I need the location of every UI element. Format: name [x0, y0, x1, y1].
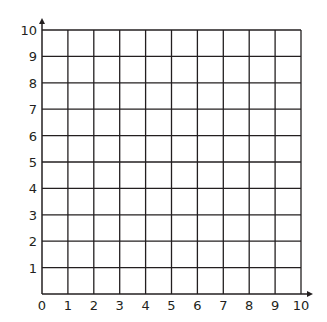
y-tick-label: 5 — [29, 155, 37, 170]
y-tick-label: 4 — [29, 181, 37, 196]
x-tick-label: 3 — [116, 298, 124, 313]
x-tick-label: 1 — [64, 298, 72, 313]
y-axis-tick-labels: 12345678910 — [20, 23, 37, 276]
y-tick-label: 9 — [29, 49, 37, 64]
x-axis-tick-labels: 012345678910 — [38, 298, 309, 313]
y-axis-arrow-icon — [39, 18, 45, 24]
x-tick-label: 2 — [90, 298, 98, 313]
y-tick-label: 8 — [29, 76, 37, 91]
x-tick-label: 5 — [167, 298, 175, 313]
x-tick-label: 4 — [141, 298, 149, 313]
x-tick-label: 10 — [293, 298, 310, 313]
y-tick-label: 3 — [29, 208, 37, 223]
coordinate-grid: 012345678910 12345678910 — [0, 0, 327, 322]
y-tick-label: 1 — [29, 261, 37, 276]
axes — [39, 18, 313, 297]
y-tick-label: 2 — [29, 234, 37, 249]
x-tick-label: 6 — [193, 298, 201, 313]
x-axis-arrow-icon — [307, 291, 313, 297]
x-tick-label: 8 — [245, 298, 253, 313]
y-tick-label: 6 — [29, 129, 37, 144]
y-tick-label: 10 — [20, 23, 37, 38]
x-tick-label: 7 — [219, 298, 227, 313]
y-tick-label: 7 — [29, 102, 37, 117]
grid-lines — [42, 30, 301, 294]
x-tick-label: 0 — [38, 298, 46, 313]
x-tick-label: 9 — [271, 298, 279, 313]
